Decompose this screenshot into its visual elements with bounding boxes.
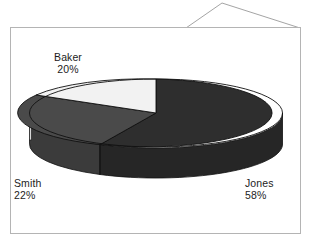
slice-label-baker-value: 20% (47, 63, 89, 75)
slice-label-jones-name: Jones (245, 177, 295, 189)
slice-label-smith: Smith 22% (14, 177, 62, 201)
slice-label-baker-name: Baker (47, 51, 89, 63)
pie-chart-graphic (0, 0, 310, 244)
slice-label-jones-value: 58% (245, 189, 295, 201)
slice-label-smith-name: Smith (14, 177, 62, 189)
pie-chart-screenshot: Baker 20% Smith 22% Jones 58% (0, 0, 310, 244)
slice-label-jones: Jones 58% (245, 177, 295, 201)
slice-label-smith-value: 22% (14, 189, 62, 201)
slice-label-baker: Baker 20% (47, 51, 89, 75)
